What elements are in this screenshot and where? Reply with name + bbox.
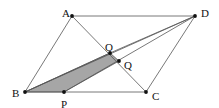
vertex-dot-p — [62, 90, 66, 94]
vertex-dot-a — [70, 14, 74, 18]
vertex-label-o: O — [105, 41, 113, 53]
segment-cevian-OD — [110, 16, 195, 53]
vertex-label-d: D — [201, 7, 209, 19]
shaded-quadrilateral-bpqo — [25, 53, 119, 92]
segment-side-DC — [146, 16, 195, 92]
geometry-canvas: ADBCPOQ — [0, 0, 219, 108]
vertex-dot-b — [23, 90, 27, 94]
vertex-label-c: C — [152, 90, 159, 102]
vertex-dot-d — [193, 14, 197, 18]
vertex-dot-c — [144, 90, 148, 94]
vertex-label-p: P — [61, 98, 67, 108]
geometry-figure: ADBCPOQ — [0, 0, 219, 108]
vertex-label-q: Q — [124, 59, 132, 71]
vertex-label-b: B — [12, 87, 19, 99]
vertex-dot-q — [117, 59, 121, 63]
vertex-label-a: A — [62, 7, 70, 19]
